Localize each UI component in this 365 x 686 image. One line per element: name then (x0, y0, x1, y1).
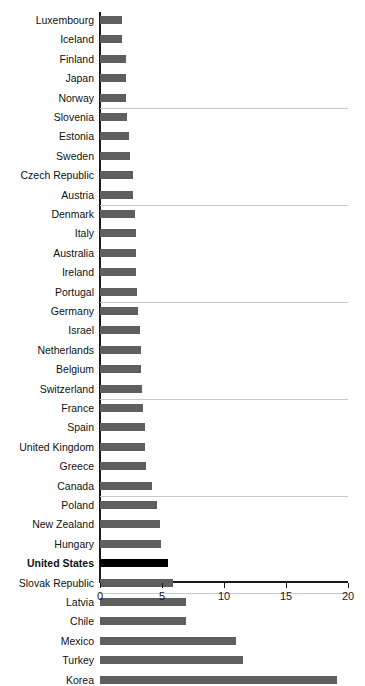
bar-korea (100, 676, 337, 684)
x-tick-label-20: 20 (333, 590, 363, 603)
bar-australia (100, 249, 136, 257)
category-label-united-states: United States (0, 558, 94, 569)
bar-united-kingdom (100, 443, 145, 451)
category-label-france: France (0, 403, 94, 414)
bar-spain (100, 423, 145, 431)
bar-finland (100, 55, 126, 63)
category-label-finland: Finland (0, 54, 94, 65)
bar-united-states (100, 559, 168, 567)
bar-czech-republic (100, 171, 133, 179)
bar-canada (100, 482, 152, 490)
bar-norway (100, 94, 126, 102)
group-separator-line (100, 496, 348, 497)
category-label-turkey: Turkey (0, 655, 94, 666)
category-label-ireland: Ireland (0, 267, 94, 278)
x-tick-label-5: 5 (147, 590, 177, 603)
x-tick-label-10: 10 (209, 590, 239, 603)
category-label-mexico: Mexico (0, 636, 94, 647)
group-separator-line (100, 302, 348, 303)
bar-japan (100, 74, 126, 82)
bar-israel (100, 326, 140, 334)
bar-iceland (100, 35, 122, 43)
category-label-slovenia: Slovenia (0, 112, 94, 123)
category-label-australia: Australia (0, 248, 94, 259)
category-label-belgium: Belgium (0, 364, 94, 375)
bar-switzerland (100, 385, 142, 393)
category-label-latvia: Latvia (0, 597, 94, 608)
bar-sweden (100, 152, 130, 160)
bar-slovenia (100, 113, 127, 121)
bar-germany (100, 307, 138, 315)
bar-france (100, 404, 143, 412)
bar-estonia (100, 132, 129, 140)
category-label-chile: Chile (0, 616, 94, 627)
bar-netherlands (100, 346, 141, 354)
category-label-new-zealand: New Zealand (0, 519, 94, 530)
category-label-luxembourg: Luxembourg (0, 15, 94, 26)
bar-new-zealand (100, 520, 160, 528)
x-tick-15 (286, 583, 287, 588)
bar-belgium (100, 365, 141, 373)
category-label-iceland: Iceland (0, 34, 94, 45)
bar-hungary (100, 540, 161, 548)
category-label-united-kingdom: United Kingdom (0, 442, 94, 453)
category-label-poland: Poland (0, 500, 94, 511)
category-label-czech-republic: Czech Republic (0, 170, 94, 181)
category-label-hungary: Hungary (0, 539, 94, 550)
bar-poland (100, 501, 157, 509)
bar-italy (100, 229, 136, 237)
bar-ireland (100, 268, 136, 276)
group-separator-line (100, 205, 348, 206)
category-label-estonia: Estonia (0, 131, 94, 142)
group-separator-line (100, 399, 348, 400)
x-tick-20 (348, 583, 349, 588)
bar-portugal (100, 288, 137, 296)
group-separator-line (100, 108, 348, 109)
x-tick-0 (100, 583, 101, 588)
category-label-greece: Greece (0, 461, 94, 472)
category-label-norway: Norway (0, 93, 94, 104)
bar-chile (100, 617, 186, 625)
category-label-switzerland: Switzerland (0, 384, 94, 395)
bar-turkey (100, 656, 243, 664)
category-label-japan: Japan (0, 73, 94, 84)
category-label-netherlands: Netherlands (0, 345, 94, 356)
bar-greece (100, 462, 146, 470)
category-label-austria: Austria (0, 190, 94, 201)
category-label-spain: Spain (0, 422, 94, 433)
x-tick-label-0: 0 (85, 590, 115, 603)
category-label-israel: Israel (0, 325, 94, 336)
category-label-germany: Germany (0, 306, 94, 317)
x-tick-5 (162, 583, 163, 588)
x-tick-10 (224, 583, 225, 588)
category-label-slovak-republic: Slovak Republic (0, 578, 94, 589)
bar-mexico (100, 637, 236, 645)
category-label-sweden: Sweden (0, 151, 94, 162)
category-label-denmark: Denmark (0, 209, 94, 220)
bar-luxembourg (100, 16, 122, 24)
x-tick-label-15: 15 (271, 590, 301, 603)
bar-austria (100, 191, 133, 199)
category-label-korea: Korea (0, 675, 94, 686)
category-label-canada: Canada (0, 481, 94, 492)
category-label-portugal: Portugal (0, 287, 94, 298)
category-label-italy: Italy (0, 228, 94, 239)
bar-denmark (100, 210, 135, 218)
